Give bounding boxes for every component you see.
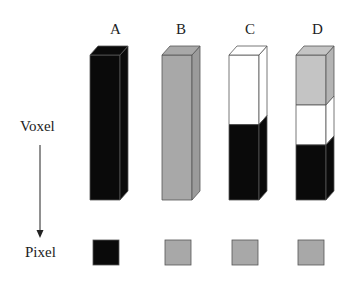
column-label-c: C: [245, 22, 255, 37]
voxel-column-c: [229, 46, 267, 200]
voxel-segment-front: [90, 55, 120, 200]
voxel-label: Voxel: [20, 119, 55, 134]
voxel-segment-side: [259, 46, 267, 125]
voxel-segment-side: [192, 46, 200, 200]
voxel-column-b: [162, 46, 200, 200]
pixel-square-a: [93, 240, 119, 265]
column-label-a: A: [110, 22, 121, 37]
pixel-square-b: [165, 240, 191, 265]
column-label-b: B: [176, 22, 186, 37]
voxel-to-pixel-arrow: [37, 145, 44, 238]
pixel-square-c: [232, 240, 258, 265]
voxel-pixel-diagram: [0, 0, 351, 282]
voxel-segment-front: [296, 145, 326, 200]
column-label-d: D: [312, 22, 323, 37]
voxel-segment-front: [296, 105, 326, 145]
voxel-segment-front: [296, 55, 326, 105]
voxel-column-a: [90, 46, 128, 200]
voxel-segment-side: [326, 136, 334, 200]
pixel-label: Pixel: [25, 245, 56, 260]
voxel-segment-front: [162, 55, 192, 200]
voxel-segment-front: [229, 55, 259, 125]
voxel-segment-side: [120, 46, 128, 200]
voxel-column-d: [296, 46, 334, 200]
voxel-segment-side: [259, 116, 267, 200]
voxel-segment-front: [229, 125, 259, 200]
pixel-square-d: [298, 240, 324, 265]
voxel-segment-side: [326, 46, 334, 105]
